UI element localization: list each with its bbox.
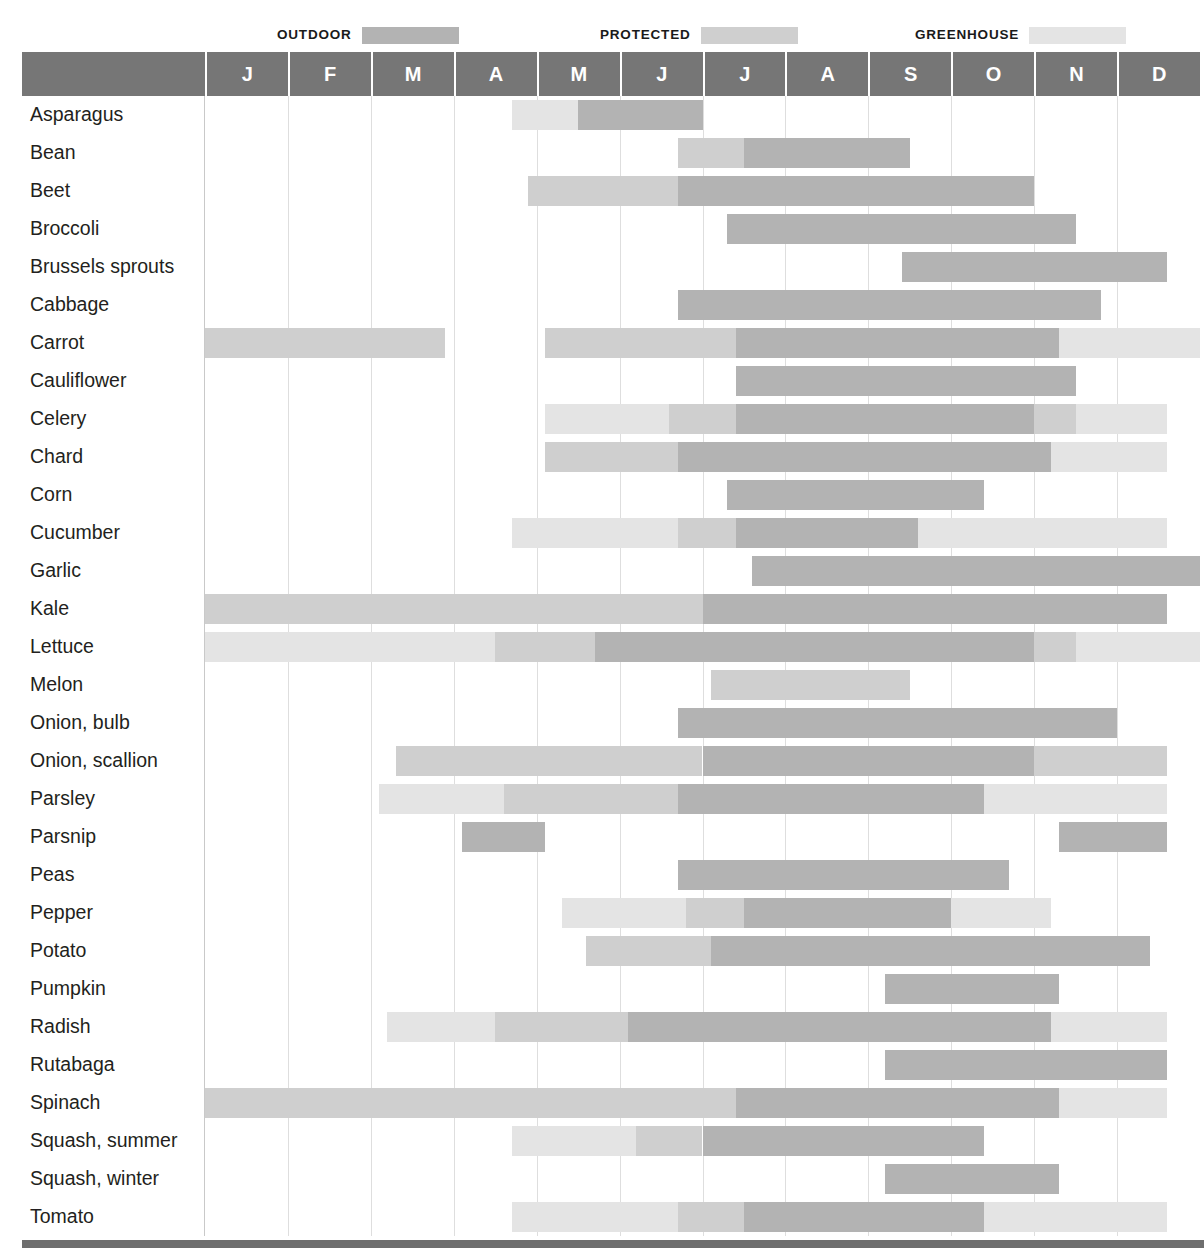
bar-segment-squash-summer-outdoor[interactable] [703, 1126, 985, 1156]
bar-segment-broccoli-outdoor[interactable] [727, 214, 1075, 244]
bar-segment-corn-outdoor[interactable] [727, 480, 984, 510]
bar-segment-rutabaga-outdoor[interactable] [885, 1050, 1167, 1080]
bar-segment-garlic-outdoor[interactable] [752, 556, 1200, 586]
bar-segment-potato-outdoor[interactable] [711, 936, 1150, 966]
bar-segment-pepper-greenhouse[interactable] [562, 898, 686, 928]
bar-segment-pumpkin-outdoor[interactable] [885, 974, 1059, 1004]
bar-segment-onion-bulb-outdoor[interactable] [678, 708, 1117, 738]
bar-segment-tomato-greenhouse[interactable] [984, 1202, 1166, 1232]
row-label-beet[interactable]: Beet [30, 181, 202, 201]
bar-segment-lettuce-greenhouse[interactable] [1076, 632, 1200, 662]
bar-segment-cucumber-greenhouse[interactable] [512, 518, 678, 548]
bar-segment-spinach-greenhouse[interactable] [1059, 1088, 1167, 1118]
month-header-july[interactable]: J [703, 52, 786, 96]
row-label-spinach[interactable]: Spinach [30, 1093, 202, 1113]
bar-segment-chard-greenhouse[interactable] [1051, 442, 1167, 472]
bar-segment-melon-protected[interactable] [711, 670, 910, 700]
month-header-january[interactable]: J [205, 52, 288, 96]
row-label-broccoli[interactable]: Broccoli [30, 219, 202, 239]
month-header-october[interactable]: O [951, 52, 1034, 96]
month-header-february[interactable]: F [288, 52, 371, 96]
row-label-pepper[interactable]: Pepper [30, 903, 202, 923]
bar-segment-lettuce-protected[interactable] [1034, 632, 1075, 662]
bar-segment-lettuce-protected[interactable] [495, 632, 595, 662]
bar-segment-squash-winter-outdoor[interactable] [885, 1164, 1059, 1194]
bar-segment-parsley-greenhouse[interactable] [984, 784, 1166, 814]
bar-segment-parsnip-outdoor[interactable] [1059, 822, 1167, 852]
bar-segment-tomato-outdoor[interactable] [744, 1202, 984, 1232]
bar-segment-radish-greenhouse[interactable] [387, 1012, 495, 1042]
row-label-cabbage[interactable]: Cabbage [30, 295, 202, 315]
bar-segment-spinach-outdoor[interactable] [736, 1088, 1059, 1118]
bar-segment-spinach-protected[interactable] [205, 1088, 736, 1118]
bar-segment-celery-greenhouse[interactable] [545, 404, 669, 434]
bar-segment-parsley-outdoor[interactable] [678, 784, 985, 814]
bar-segment-onion-scallion-protected[interactable] [1034, 746, 1167, 776]
bar-segment-carrot-outdoor[interactable] [736, 328, 1059, 358]
row-label-tomato[interactable]: Tomato [30, 1207, 202, 1227]
row-label-celery[interactable]: Celery [30, 409, 202, 429]
row-label-potato[interactable]: Potato [30, 941, 202, 961]
bar-segment-celery-protected[interactable] [669, 404, 735, 434]
row-label-kale[interactable]: Kale [30, 599, 202, 619]
row-label-peas[interactable]: Peas [30, 865, 202, 885]
bar-segment-celery-protected[interactable] [1034, 404, 1075, 434]
month-header-september[interactable]: S [868, 52, 951, 96]
bar-segment-cauliflower-outdoor[interactable] [736, 366, 1076, 396]
bar-segment-tomato-protected[interactable] [678, 1202, 744, 1232]
bar-segment-kale-outdoor[interactable] [703, 594, 1167, 624]
bar-segment-lettuce-outdoor[interactable] [595, 632, 1034, 662]
bar-segment-carrot-greenhouse[interactable] [1059, 328, 1200, 358]
row-label-brussels-sprouts[interactable]: Brussels sprouts [30, 257, 202, 277]
row-label-rutabaga[interactable]: Rutabaga [30, 1055, 202, 1075]
bar-segment-squash-summer-protected[interactable] [636, 1126, 702, 1156]
row-label-onion-scallion[interactable]: Onion, scallion [30, 751, 202, 771]
bar-segment-bean-protected[interactable] [678, 138, 744, 168]
row-label-carrot[interactable]: Carrot [30, 333, 202, 353]
bar-segment-celery-greenhouse[interactable] [1076, 404, 1167, 434]
bar-segment-bean-outdoor[interactable] [744, 138, 910, 168]
month-header-august[interactable]: A [785, 52, 868, 96]
bar-segment-brussels-sprouts-outdoor[interactable] [902, 252, 1167, 282]
bar-segment-carrot-protected[interactable] [205, 328, 445, 358]
bar-segment-tomato-greenhouse[interactable] [512, 1202, 678, 1232]
bar-segment-onion-scallion-protected[interactable] [396, 746, 703, 776]
bar-segment-cabbage-outdoor[interactable] [678, 290, 1101, 320]
bar-segment-parsley-protected[interactable] [504, 784, 678, 814]
bar-segment-squash-summer-greenhouse[interactable] [512, 1126, 636, 1156]
bar-segment-cucumber-protected[interactable] [678, 518, 736, 548]
bar-segment-parsley-greenhouse[interactable] [379, 784, 503, 814]
month-header-april[interactable]: A [454, 52, 537, 96]
bar-segment-beet-outdoor[interactable] [678, 176, 1035, 206]
bar-segment-peas-outdoor[interactable] [678, 860, 1010, 890]
row-label-bean[interactable]: Bean [30, 143, 202, 163]
bar-segment-onion-scallion-outdoor[interactable] [703, 746, 1035, 776]
row-label-squash-summer[interactable]: Squash, summer [30, 1131, 202, 1151]
bar-segment-pepper-protected[interactable] [686, 898, 744, 928]
bar-segment-pepper-outdoor[interactable] [744, 898, 951, 928]
bar-segment-parsnip-outdoor[interactable] [462, 822, 545, 852]
bar-segment-cucumber-greenhouse[interactable] [918, 518, 1167, 548]
row-label-melon[interactable]: Melon [30, 675, 202, 695]
row-label-lettuce[interactable]: Lettuce [30, 637, 202, 657]
month-header-june[interactable]: J [620, 52, 703, 96]
row-label-parsnip[interactable]: Parsnip [30, 827, 202, 847]
row-label-radish[interactable]: Radish [30, 1017, 202, 1037]
bar-segment-potato-protected[interactable] [586, 936, 710, 966]
row-label-asparagus[interactable]: Asparagus [30, 105, 202, 125]
bar-segment-carrot-protected[interactable] [545, 328, 736, 358]
row-label-squash-winter[interactable]: Squash, winter [30, 1169, 202, 1189]
bar-segment-asparagus-outdoor[interactable] [578, 100, 702, 130]
bar-segment-radish-outdoor[interactable] [628, 1012, 1051, 1042]
row-label-corn[interactable]: Corn [30, 485, 202, 505]
bar-segment-kale-protected[interactable] [205, 594, 703, 624]
bar-segment-chard-outdoor[interactable] [678, 442, 1051, 472]
row-label-cucumber[interactable]: Cucumber [30, 523, 202, 543]
bar-segment-pepper-greenhouse[interactable] [951, 898, 1051, 928]
bar-segment-radish-protected[interactable] [495, 1012, 628, 1042]
month-header-november[interactable]: N [1034, 52, 1117, 96]
month-header-may[interactable]: M [537, 52, 620, 96]
row-label-onion-bulb[interactable]: Onion, bulb [30, 713, 202, 733]
row-label-pumpkin[interactable]: Pumpkin [30, 979, 202, 999]
row-label-parsley[interactable]: Parsley [30, 789, 202, 809]
